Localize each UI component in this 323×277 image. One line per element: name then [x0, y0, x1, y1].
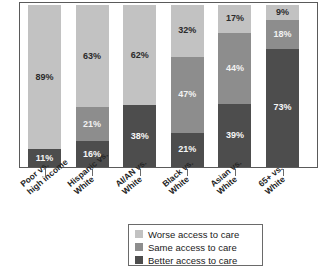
bar-segment-same: 44% — [218, 33, 251, 104]
legend-item-same[interactable]: Same access to care — [135, 241, 262, 253]
bar-5: 17%44%39% — [218, 5, 251, 167]
segment-value-label: 21% — [178, 145, 196, 154]
bar-segment-worse: 63% — [76, 5, 109, 107]
chart-legend: Worse access to careSame access to careB… — [128, 224, 263, 266]
segment-value-label: 89% — [35, 73, 53, 82]
segment-value-label: 38% — [131, 132, 149, 141]
segment-value-label: 21% — [83, 120, 101, 129]
bar-2: 63%21%16% — [76, 5, 109, 167]
legend-item-worse[interactable]: Worse access to care — [135, 228, 262, 240]
segment-value-label: 17% — [226, 14, 244, 23]
segment-value-label: 44% — [226, 64, 244, 73]
bar-6: 9%18%73% — [266, 5, 299, 167]
legend-label: Same access to care — [148, 242, 237, 253]
legend-item-better[interactable]: Better access to care — [135, 254, 262, 266]
segment-value-label: 39% — [226, 131, 244, 140]
segment-value-label: 18% — [273, 30, 291, 39]
bar-4: 32%47%21% — [171, 5, 204, 167]
bar-segment-worse: 17% — [218, 5, 251, 33]
legend-swatch-icon — [135, 243, 143, 251]
bar-segment-same: 21% — [76, 107, 109, 141]
category-label-6: 65+ vs.White — [257, 164, 291, 197]
bar-segment-worse: 9% — [266, 5, 299, 20]
segment-value-label: 32% — [178, 26, 196, 35]
legend-swatch-icon — [135, 230, 143, 238]
segment-value-label: 62% — [131, 51, 149, 60]
bar-segment-worse: 32% — [171, 5, 204, 57]
segment-value-label: 9% — [276, 8, 289, 17]
segment-value-label: 63% — [83, 52, 101, 61]
stacked-bar-chart: 89%11%63%21%16%62%38%32%47%21%17%44%39%9… — [0, 0, 323, 277]
bar-segment-better: 73% — [266, 49, 299, 167]
bars-layer: 89%11%63%21%16%62%38%32%47%21%17%44%39%9… — [19, 2, 318, 168]
bar-segment-same: 18% — [266, 20, 299, 49]
bar-segment-same: 47% — [171, 57, 204, 133]
bar-3: 62%38% — [123, 5, 156, 167]
segment-value-label: 47% — [178, 90, 196, 99]
segment-value-label: 73% — [273, 103, 291, 112]
bar-1: 89%11% — [28, 5, 61, 167]
legend-label: Better access to care — [148, 255, 237, 266]
legend-swatch-icon — [135, 256, 143, 264]
legend-label: Worse access to care — [148, 229, 239, 240]
bar-segment-worse: 89% — [28, 5, 61, 149]
bar-segment-worse: 62% — [123, 5, 156, 105]
